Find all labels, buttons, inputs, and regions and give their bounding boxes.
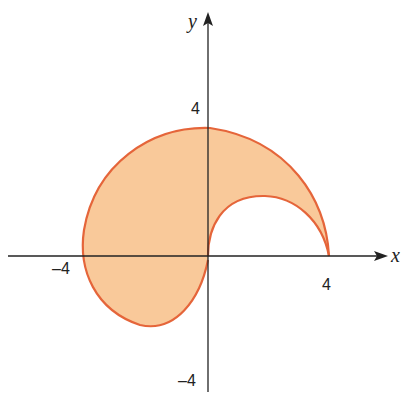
x-tick-4: 4 (322, 276, 331, 294)
polar-diagram (0, 0, 413, 404)
y-tick-4: 4 (191, 100, 200, 118)
x-axis-label: x (391, 244, 400, 267)
y-axis-label: y (188, 10, 197, 33)
x-tick-neg-4: –4 (52, 260, 70, 278)
y-tick-neg-4: –4 (178, 372, 196, 390)
shaded-region (83, 128, 329, 326)
